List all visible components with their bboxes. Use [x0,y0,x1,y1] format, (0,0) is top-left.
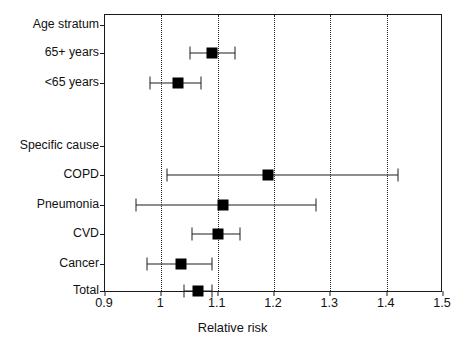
row-label-65-years: 65+ years [45,46,104,58]
y-axis-tick [100,175,105,176]
ci-upper-cap [397,169,398,182]
ci-upper-cap [316,199,317,212]
row-label-copd: COPD [63,168,104,180]
forest-plot-figure: Age stratum65+ years<65 yearsSpecific ca… [0,0,465,344]
row-label-age-stratum: Age stratum [33,18,104,30]
ci-upper-cap [200,77,201,90]
gridline [218,15,219,291]
ci-lower-cap [183,285,184,298]
row-label-65-years: <65 years [45,76,104,88]
point-estimate-marker [192,286,203,297]
x-axis-tick-label: 1.1 [208,297,226,310]
y-axis-tick [100,205,105,206]
confidence-interval-line [167,175,398,176]
row-label-cancer: Cancer [59,257,104,269]
point-estimate-marker [173,78,184,89]
point-estimate-marker [207,48,218,59]
y-axis-tick [100,146,105,147]
ci-lower-cap [150,77,151,90]
y-axis-tick [100,53,105,54]
y-axis-tick [100,264,105,265]
y-axis-tick [100,25,105,26]
point-estimate-marker [212,229,223,240]
row-label-total: Total [73,284,104,296]
point-estimate-marker [218,200,229,211]
ci-lower-cap [147,258,148,271]
row-label-specific-cause: Specific cause [20,139,104,151]
y-axis-tick [100,83,105,84]
ci-lower-cap [135,199,136,212]
ci-upper-cap [234,47,235,60]
point-estimate-marker [263,170,274,181]
x-axis-title: Relative risk [0,322,465,335]
gridline [330,15,331,291]
x-axis-tick-label: 1.2 [264,297,282,310]
ci-upper-cap [212,258,213,271]
gridline [161,15,162,291]
x-axis-tick-label: 1.4 [377,297,395,310]
row-label-cvd: CVD [73,227,104,239]
row-label-column: Age stratum65+ years<65 yearsSpecific ca… [0,0,104,344]
x-axis-tick-label: 1.3 [321,297,339,310]
plot-area [104,14,442,292]
x-axis-tick-label: 1 [157,297,164,310]
point-estimate-marker [176,259,187,270]
x-axis-tick-label: 1.5 [433,297,451,310]
row-label-pneumonia: Pneumonia [37,198,104,210]
ci-upper-cap [240,228,241,241]
ci-lower-cap [192,228,193,241]
gridline [274,15,275,291]
ci-lower-cap [166,169,167,182]
x-axis-tick-label: 0.9 [95,297,113,310]
ci-lower-cap [189,47,190,60]
y-axis-tick [100,234,105,235]
gridline [387,15,388,291]
